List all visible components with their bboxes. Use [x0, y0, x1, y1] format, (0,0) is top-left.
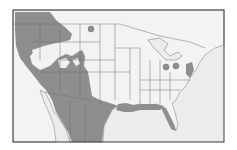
isolated-record-west-virginia [173, 63, 179, 69]
isolated-record-north-dakota [88, 26, 94, 32]
isolated-record-ohio [163, 64, 169, 70]
range-map [0, 0, 237, 150]
